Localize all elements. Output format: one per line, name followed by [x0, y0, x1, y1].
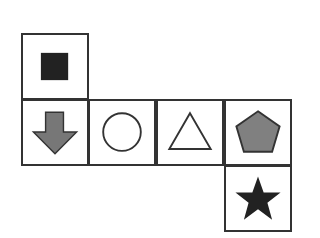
pentagon-icon: [226, 101, 290, 164]
cell-arrow: [21, 99, 89, 166]
circle-icon: [90, 101, 154, 164]
down-arrow-icon: [23, 101, 87, 164]
star-icon: [226, 167, 290, 230]
triangle-icon: [158, 101, 222, 164]
cell-star: [224, 165, 292, 232]
cell-circle: [88, 99, 156, 166]
cell-triangle: [156, 99, 224, 166]
cell-square: [21, 33, 89, 100]
cell-pentagon: [224, 99, 292, 166]
square-icon: [23, 35, 87, 98]
